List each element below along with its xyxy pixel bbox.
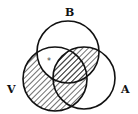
label-b: B (65, 6, 74, 19)
venn-diagram: B V A * (0, 0, 138, 114)
star-marker: * (47, 57, 51, 66)
label-v: V (6, 83, 16, 96)
label-a: A (120, 83, 130, 96)
